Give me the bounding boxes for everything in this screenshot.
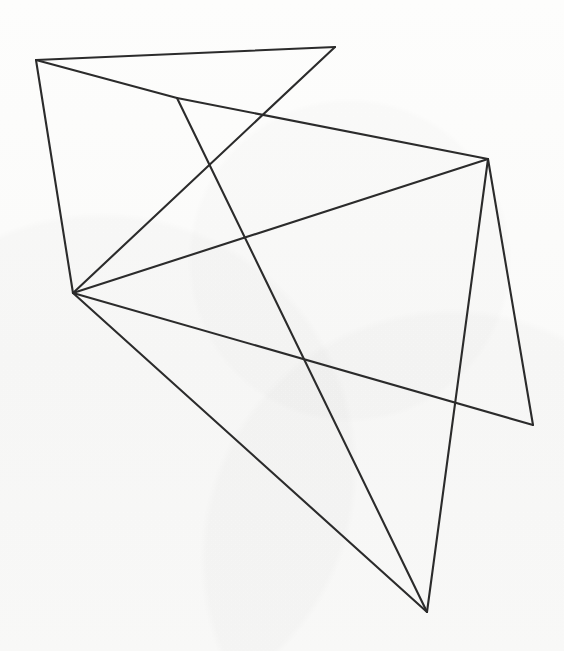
line-segment-AD	[36, 60, 73, 293]
line-figure	[0, 0, 564, 651]
line-segment-AB	[36, 47, 335, 60]
line-segment-DG	[73, 293, 427, 612]
line-segment-CG	[177, 98, 427, 612]
line-segment-EF	[488, 159, 533, 425]
line-segment-EG	[427, 159, 488, 612]
drawing-canvas	[0, 0, 564, 651]
line-segment-AC	[36, 60, 177, 98]
line-segment-BD	[73, 47, 335, 293]
line-segment-DE	[73, 159, 488, 293]
line-segment-CE	[177, 98, 488, 159]
edge-group	[36, 47, 533, 612]
